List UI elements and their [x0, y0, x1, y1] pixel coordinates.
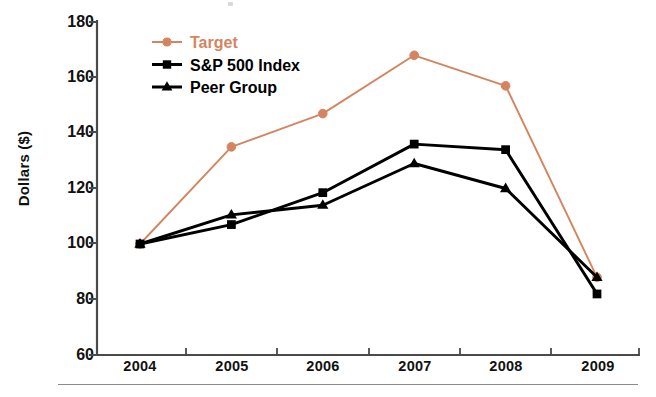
data-point — [410, 51, 419, 60]
y-axis-ticks — [89, 22, 97, 355]
data-point — [501, 145, 510, 154]
plot-area: TargetS&P 500 IndexPeer Group — [0, 0, 656, 397]
square-marker-icon — [163, 60, 171, 68]
chart-legend: TargetS&P 500 IndexPeer Group — [152, 34, 300, 96]
data-point — [318, 109, 327, 118]
data-point — [227, 143, 236, 152]
data-point — [410, 140, 419, 149]
legend-label: Target — [190, 34, 238, 51]
data-point — [593, 290, 602, 299]
data-point — [409, 158, 420, 168]
legend-item: Peer Group — [152, 79, 277, 96]
circle-marker-icon — [163, 38, 171, 46]
legend-label: Peer Group — [190, 79, 277, 96]
stock-performance-chart: Dollars ($) 180 160 140 120 100 80 60 20… — [0, 0, 656, 397]
data-point — [227, 220, 236, 229]
legend-item: S&P 500 Index — [152, 57, 300, 74]
data-point — [318, 188, 327, 197]
legend-item: Target — [152, 34, 238, 51]
legend-label: S&P 500 Index — [190, 57, 300, 74]
data-point — [501, 82, 510, 91]
series-s-p-500-index — [136, 140, 602, 299]
